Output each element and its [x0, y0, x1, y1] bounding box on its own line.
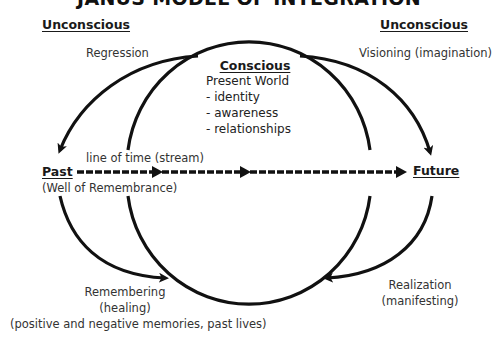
future-header: Future [413, 163, 459, 178]
conscious-block: Conscious Present World - identity - awa… [200, 58, 310, 137]
visioning-arrow [300, 56, 430, 152]
time-arrowhead-end [396, 166, 407, 178]
manifesting-label: (manifesting) [370, 294, 470, 308]
unconscious-left-header: Unconscious [42, 17, 130, 32]
regression-label: Regression [86, 46, 149, 60]
realization-arrow [327, 196, 432, 278]
visioning-label: Visioning (imagination) [359, 46, 492, 60]
remembering-label: Remembering [60, 285, 190, 299]
remembering-arrow [60, 196, 165, 278]
time-arrowhead-2 [240, 166, 251, 178]
past-header: Past [42, 164, 73, 179]
conscious-title: Conscious [200, 58, 310, 73]
well-of-remembrance-label: (Well of Remembrance) [42, 181, 177, 195]
line-of-time-label: line of time (stream) [86, 151, 204, 165]
conscious-item: - identity [200, 89, 310, 105]
memories-label: (positive and negative memories, past li… [10, 317, 267, 331]
time-arrowhead-1 [152, 166, 163, 178]
conscious-item: - awareness [200, 105, 310, 121]
healing-label: (healing) [60, 301, 190, 315]
realization-label: Realization [370, 278, 470, 292]
conscious-item: Present World [200, 73, 310, 89]
conscious-item: - relationships [200, 121, 310, 137]
unconscious-right-header: Unconscious [380, 17, 468, 32]
